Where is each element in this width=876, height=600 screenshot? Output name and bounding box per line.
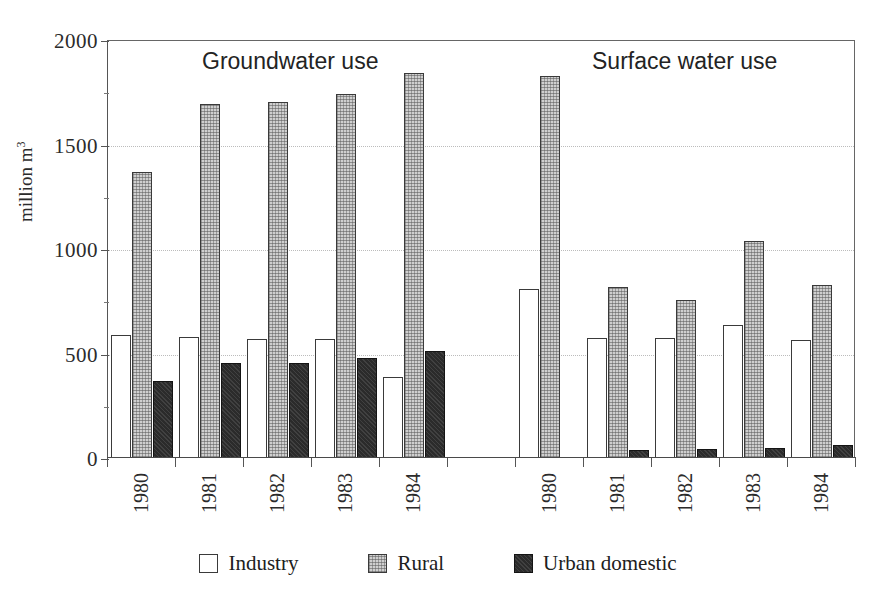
x-axis-label-1983: 1983 xyxy=(334,473,357,513)
x-axis-tick xyxy=(515,458,516,467)
bar-industry xyxy=(655,338,676,458)
x-axis-tick xyxy=(719,458,720,467)
legend-item-rural[interactable]: Rural xyxy=(368,551,444,576)
y-axis-tick-label: 1500 xyxy=(54,133,98,158)
legend-item-urban-domestic[interactable]: Urban domestic xyxy=(514,551,677,576)
x-axis-tick xyxy=(311,458,312,467)
x-axis-tick xyxy=(651,458,652,467)
bar-urban-domestic xyxy=(357,358,378,458)
chart-legend: IndustryRuralUrban domestic xyxy=(0,551,876,576)
bar-industry xyxy=(723,325,744,458)
bar-urban-domestic xyxy=(221,363,242,458)
x-axis-label-1983: 1983 xyxy=(742,473,765,513)
y-axis-tick-label: 2000 xyxy=(54,29,98,54)
bar-industry xyxy=(587,338,608,458)
x-axis-label-1982: 1982 xyxy=(266,473,289,513)
x-axis-label-1981: 1981 xyxy=(606,473,629,513)
bar-urban-domestic xyxy=(289,363,310,458)
bar-industry xyxy=(791,340,812,458)
bar-rural xyxy=(336,94,357,458)
bar-group xyxy=(584,40,652,458)
legend-item-industry[interactable]: Industry xyxy=(199,551,298,576)
bar-rural xyxy=(608,287,629,458)
bar-chart-figure: million m3 Groundwater use Surface water… xyxy=(0,0,876,600)
x-axis-tick xyxy=(243,458,244,467)
bar-industry xyxy=(383,377,404,459)
y-axis-tick-label: 0 xyxy=(87,447,98,472)
x-axis-label-1981: 1981 xyxy=(198,473,221,513)
x-axis-tick xyxy=(583,458,584,467)
x-axis-label-1984: 1984 xyxy=(402,473,425,513)
bar-group xyxy=(652,40,720,458)
bar-urban-domestic xyxy=(153,381,174,458)
bar-group xyxy=(244,40,312,458)
x-axis-tick xyxy=(855,458,856,467)
y-axis-tick-label: 1000 xyxy=(54,238,98,263)
bar-rural xyxy=(812,285,833,458)
legend-label: Industry xyxy=(228,551,298,576)
legend-label: Rural xyxy=(397,551,444,576)
legend-label: Urban domestic xyxy=(543,551,677,576)
bar-rural xyxy=(404,73,425,458)
y-axis-title-text: million m xyxy=(15,148,36,222)
bar-group xyxy=(516,40,584,458)
x-axis-baseline xyxy=(107,457,856,458)
stippled-gray-square-icon xyxy=(368,554,387,573)
y-axis-title-superscript: 3 xyxy=(14,142,28,148)
x-axis-tick xyxy=(175,458,176,467)
open-white-square-icon xyxy=(199,554,218,573)
bar-industry xyxy=(315,339,336,458)
filled-dark-square-icon xyxy=(514,554,533,573)
bar-rural xyxy=(744,241,765,458)
bar-group xyxy=(788,40,856,458)
bar-group xyxy=(380,40,448,458)
bar-industry xyxy=(111,335,132,458)
bar-industry xyxy=(247,339,268,458)
bar-rural xyxy=(200,104,221,458)
bar-rural xyxy=(132,172,153,458)
x-axis-tick xyxy=(379,458,380,467)
bar-industry xyxy=(519,289,540,458)
bar-group xyxy=(108,40,176,458)
bar-group xyxy=(312,40,380,458)
bar-group xyxy=(720,40,788,458)
x-axis-label-1984: 1984 xyxy=(810,473,833,513)
x-axis-label-1980: 1980 xyxy=(130,473,153,513)
plot-area: 0500100015002000 xyxy=(107,40,855,458)
bar-industry xyxy=(179,337,200,458)
bar-rural xyxy=(540,76,561,458)
y-axis-title: million m3 xyxy=(14,188,37,222)
x-axis-label-1980: 1980 xyxy=(538,473,561,513)
bar-rural xyxy=(676,300,697,458)
x-axis-label-1982: 1982 xyxy=(674,473,697,513)
y-axis-tick-label: 500 xyxy=(65,342,98,367)
x-axis-tick xyxy=(107,458,108,467)
x-axis-tick xyxy=(787,458,788,467)
bar-urban-domestic xyxy=(425,351,446,458)
bar-group xyxy=(176,40,244,458)
x-axis-tick xyxy=(447,458,448,467)
bar-rural xyxy=(268,102,289,458)
